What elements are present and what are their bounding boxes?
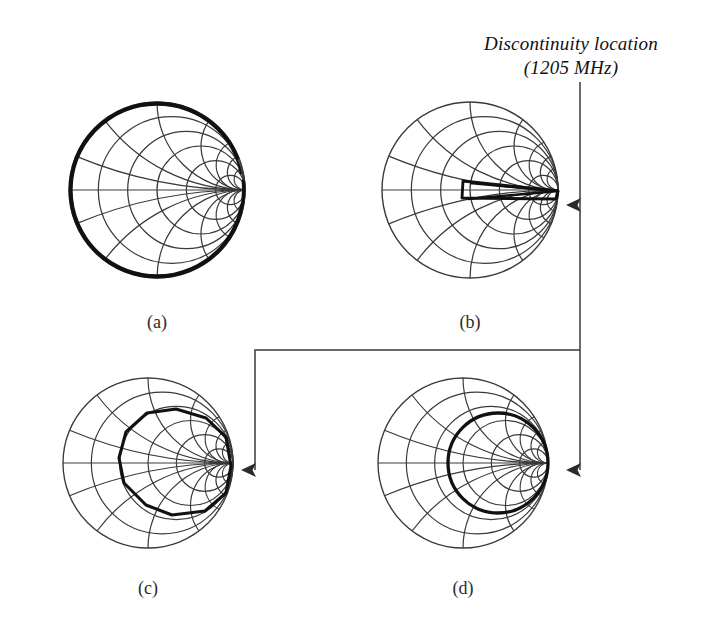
- caption-panel-a: (a): [127, 312, 187, 333]
- smith-panel-d: [378, 378, 548, 548]
- leader-branch-to-c: [255, 350, 580, 470]
- smith-panel-c: [63, 378, 233, 548]
- annotation-line-2: (1205 MHz): [484, 56, 658, 80]
- smith-grid-d: [378, 378, 548, 548]
- caption-panel-b: (b): [440, 312, 500, 333]
- arrow-to-panel-c: [241, 463, 256, 477]
- smith-grid-c: [63, 378, 233, 548]
- smith-grid-b: [382, 102, 558, 278]
- smith-panel-a: [58, 91, 256, 289]
- caption-panel-d: (d): [433, 578, 493, 599]
- smith-panel-b: [382, 102, 558, 278]
- annotation-line-1: Discontinuity location: [484, 32, 658, 56]
- annotation-label: Discontinuity location (1205 MHz): [484, 32, 658, 80]
- caption-panel-c: (c): [118, 578, 178, 599]
- arrow-to-panel-b: [566, 198, 581, 212]
- smith-chart-figure: [0, 0, 709, 625]
- arrow-to-panel-d: [566, 463, 581, 477]
